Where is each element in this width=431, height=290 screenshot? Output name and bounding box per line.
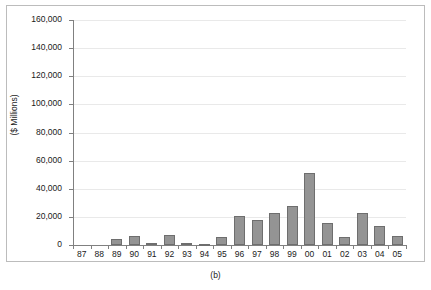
bar-03 <box>357 213 368 245</box>
y-tick-mark <box>69 217 73 218</box>
y-tick-label: 160,000 <box>0 15 62 24</box>
gridline <box>73 189 406 190</box>
y-tick-label: 140,000 <box>0 43 62 52</box>
x-tick-mark <box>73 245 74 249</box>
y-tick-mark <box>69 104 73 105</box>
bar-04 <box>374 226 385 245</box>
plot-area <box>73 20 406 245</box>
gridline <box>73 104 406 105</box>
y-tick-label: 40,000 <box>0 184 62 193</box>
bar-92 <box>164 235 175 245</box>
bar-95 <box>216 237 227 245</box>
bar-98 <box>269 213 280 245</box>
x-tick-mark <box>178 245 179 249</box>
x-tick-mark <box>91 245 92 249</box>
x-tick-mark <box>126 245 127 249</box>
y-tick-mark <box>69 133 73 134</box>
y-tick-mark <box>69 161 73 162</box>
x-tick-mark <box>213 245 214 249</box>
y-tick-mark <box>69 48 73 49</box>
gridline <box>73 20 406 21</box>
x-tick-mark <box>143 245 144 249</box>
bar-05 <box>392 236 403 245</box>
bar-97 <box>252 220 263 245</box>
figure-caption: (b) <box>0 270 431 280</box>
y-axis-title: ($ Millions) <box>9 65 19 165</box>
x-tick-mark <box>388 245 389 249</box>
x-tick-mark <box>353 245 354 249</box>
y-tick-label: 20,000 <box>0 212 62 221</box>
bar-94 <box>199 244 210 246</box>
y-tick-label: 120,000 <box>0 71 62 80</box>
bar-93 <box>181 243 192 245</box>
y-tick-mark <box>69 189 73 190</box>
bar-96 <box>234 216 245 245</box>
x-tick-mark <box>108 245 109 249</box>
x-tick-mark <box>266 245 267 249</box>
gridline <box>73 76 406 77</box>
x-tick-mark <box>371 245 372 249</box>
y-tick-label: 100,000 <box>0 99 62 108</box>
bar-89 <box>111 239 122 245</box>
x-axis-line <box>73 245 407 246</box>
y-axis-line <box>73 20 74 246</box>
bar-90 <box>129 236 140 245</box>
x-tick-mark <box>196 245 197 249</box>
x-tick-label-05: 05 <box>385 250 409 259</box>
x-tick-mark <box>161 245 162 249</box>
y-tick-label: 0 <box>0 240 62 249</box>
x-tick-mark <box>231 245 232 249</box>
x-tick-mark <box>318 245 319 249</box>
x-tick-mark <box>248 245 249 249</box>
bar-91 <box>146 243 157 245</box>
gridline <box>73 48 406 49</box>
bar-00 <box>304 173 315 245</box>
x-tick-mark <box>301 245 302 249</box>
bar-02 <box>339 237 350 245</box>
x-tick-mark <box>336 245 337 249</box>
x-tick-mark <box>283 245 284 249</box>
gridline <box>73 133 406 134</box>
y-tick-label: 80,000 <box>0 128 62 137</box>
y-tick-mark <box>69 76 73 77</box>
bar-01 <box>322 223 333 245</box>
y-tick-label: 60,000 <box>0 156 62 165</box>
x-tick-mark <box>406 245 407 249</box>
gridline <box>73 161 406 162</box>
y-tick-mark <box>69 20 73 21</box>
figure-container: ($ Millions) 160,000140,000120,000100,00… <box>0 0 431 290</box>
bar-99 <box>287 206 298 245</box>
